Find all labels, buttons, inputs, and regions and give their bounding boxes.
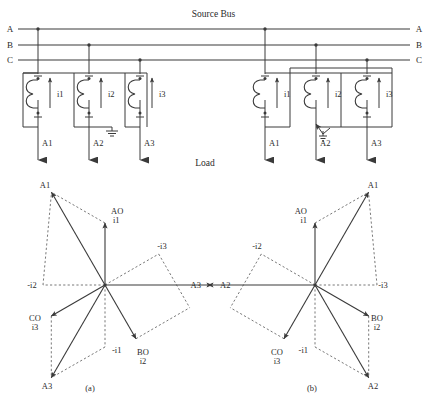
phasor-b-label-neg-i1: -i1 [299,345,308,355]
terminal-label-a-A3: A3 [144,138,154,148]
phasor-b-label-BO-i2: i2 [374,322,381,332]
ct-coil-a3 [128,80,135,108]
phasor-b-label-neg-i3: -i3 [378,280,387,290]
vector-a-A3 [51,285,105,378]
vector-a-BO [105,285,136,339]
ct-coil-b3-tails [362,80,367,108]
bus-label-b-right: B [416,40,422,50]
junction-dot-a2 [87,43,90,46]
secondary-loop-a2 [23,73,89,127]
phasor-a-label-neg-i1: -i1 [112,345,121,355]
terminal-label-b-A3: A3 [371,138,381,148]
junction-dot-a3 [138,58,141,61]
phasor-b-label-A1: A1 [368,180,378,190]
bus-label-c-right: C [416,55,422,65]
terminal-label-b-A2: A2 [320,138,330,148]
phasor-a-label-A1: A1 [40,180,50,190]
phasor-b-label-AO-i1: i1 [300,215,307,225]
vector-b-A2 [315,285,369,378]
phasor-a-label-neg-i2: -i2 [27,280,36,290]
terminal-label-b-A1: A1 [269,138,279,148]
source-bus-group: A A B B C C [7,24,423,65]
junction-dot-a1 [36,27,39,30]
caption-a: (a) [85,383,95,393]
junction-dot-b3 [365,58,368,61]
phasor-b: A1 AO i1 -i2 -i3 A3 CO i3 BO i2 -i1 A2 [191,180,388,391]
ct-coil-a3-tails [135,80,140,108]
bus-label-b-left: B [7,40,13,50]
ct-coil-a2 [77,80,84,108]
phasor-b-label-CO-i3: i3 [274,356,281,366]
vector-b-BO [315,285,369,316]
bus-label-c-left: C [7,55,13,65]
ct-coil-a1-tails [33,80,38,108]
phasor-b-origin [313,283,316,286]
phasor-a-solid [51,192,212,377]
load-label: Load [195,158,215,168]
ct-coil-b2-tails [311,80,316,108]
phasor-a-label-CO-i3: i3 [32,322,39,332]
current-label-a-i2: i2 [108,89,115,99]
bus-label-a-right: A [416,24,423,34]
circuit-phasor-figure: Source Bus A A B B C C [0,0,427,405]
ct-coil-a2-tails [84,80,89,108]
phasor-a-label-neg-i3: -i3 [157,241,166,251]
ct-coil-b2 [304,80,311,108]
phasor-b-label-A3: A3 [191,280,201,290]
vector-b-A1 [315,192,369,285]
ct-coil-b3 [355,80,362,108]
secondary-loop-a3 [74,73,140,127]
phasor-a-label-AO-i1: i1 [113,215,120,225]
terminal-label-a-A2: A2 [93,138,103,148]
ct-coil-b1-tails [260,80,265,108]
current-label-a-i1: i1 [57,89,64,99]
junction-dot-b1 [263,27,266,30]
junction-dot-b2 [314,43,317,46]
figure-title: Source Bus [192,9,236,19]
ground-symbol-a [89,127,118,136]
ct-coil-b1 [253,80,260,108]
circuit-a: i1 i2 i3 A1 A2 A3 [23,27,166,160]
terminal-label-a-A1: A1 [42,138,52,148]
phasor-a-origin [103,283,106,286]
figure-root: Source Bus A A B B C C [0,0,427,405]
current-label-a-i3: i3 [159,89,166,99]
ct-coil-a1 [26,80,33,108]
vector-b-CO [284,285,315,339]
vector-a-CO [51,285,105,316]
phasor-b-label-A2: A2 [368,381,378,391]
phasor-b-label-neg-i2: -i2 [252,241,261,251]
vector-a-A1 [52,192,106,285]
phasor-a-label-A3: A3 [42,381,52,391]
circuit-b: i1 i2 i3 A1 A2 A3 [253,27,392,160]
phasor-b-solid [208,192,369,377]
bus-label-a-left: A [7,24,14,34]
phasor-a-label-BO-i2: i2 [140,356,147,366]
caption-b: (b) [307,383,317,393]
